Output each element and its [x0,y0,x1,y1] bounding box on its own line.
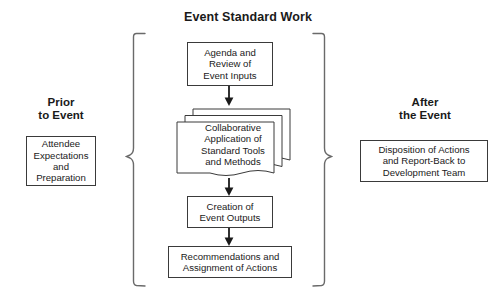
flow-step-collaborative-label: Collaborative Application of Standard To… [180,122,286,168]
flow-step-agenda-label: Agenda and Review of Event Inputs [188,47,272,81]
right-curly-bracket-icon [310,32,334,288]
left-section-heading: Prior to Event [12,96,110,122]
left-curly-bracket-icon [124,32,148,288]
page-title: Event Standard Work [0,10,496,24]
flow-step-creation-label: Creation of Event Outputs [188,201,272,224]
flow-step-creation-box: Creation of Event Outputs [187,196,273,228]
flow-step-recommendations-box: Recommendations and Assignment of Action… [168,246,292,278]
right-section-heading: After the Event [372,96,478,122]
after-the-event-box-label: Disposition of Actions and Report-Back t… [361,144,487,178]
flow-step-collaborative-docstack: Collaborative Application of Standard To… [176,108,304,182]
flow-step-agenda-box: Agenda and Review of Event Inputs [187,42,273,86]
flow-step-recommendations-label: Recommendations and Assignment of Action… [169,251,291,274]
arrow-down-icon-1 [222,86,236,107]
arrow-down-icon-2 [222,178,236,197]
prior-to-event-box-label: Attendee Expectations and Preparation [27,138,95,184]
arrow-down-icon-3 [222,228,236,247]
after-the-event-box: Disposition of Actions and Report-Back t… [360,140,488,182]
prior-to-event-box: Attendee Expectations and Preparation [26,136,96,186]
diagram-canvas: Event Standard Work Prior to Event Atten… [0,0,496,304]
